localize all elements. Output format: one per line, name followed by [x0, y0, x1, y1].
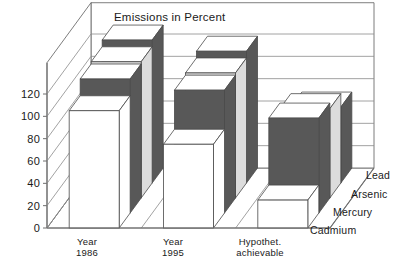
bar-cadmium-group2-front: [164, 144, 214, 228]
y-axis-tick-20: 20: [6, 200, 40, 212]
bar-arsenic-group2-side: [236, 58, 247, 198]
bar-cadmium-group1-front: [69, 111, 119, 228]
bar-cadmium-group3-front: [258, 200, 308, 228]
bar-mercury-group1-side: [130, 64, 141, 213]
series-label-cadmium: Cadmium: [310, 224, 356, 236]
series-label-mercury: Mercury: [333, 206, 372, 218]
series-label-lead: Lead: [366, 169, 390, 181]
y-axis-tick-80: 80: [6, 133, 40, 145]
y-axis-tick-40: 40: [6, 177, 40, 189]
y-axis-tick-60: 60: [6, 155, 40, 167]
chart-title: Emissions in Percent: [114, 11, 225, 23]
x-axis-label-hypothetical-line2: achievable: [215, 247, 305, 259]
bar-lead-group2-side: [247, 36, 258, 183]
bar-lead-group1-side: [152, 25, 163, 183]
bar-mercury-group3-side: [319, 103, 330, 213]
bar-cadmium-group2-side: [214, 129, 225, 228]
y-axis-tick-0: 0: [6, 222, 40, 234]
bar-arsenic-group3-side: [330, 94, 341, 198]
x-axis-label-year-1995-line2: 1995: [128, 247, 218, 259]
series-label-arsenic: Arsenic: [351, 188, 387, 200]
bar-arsenic-group1-side: [141, 47, 152, 198]
bar-mercury-group2-side: [225, 75, 236, 213]
x-axis-label-year-1986-line2: 1986: [42, 247, 132, 259]
x-axis-label-hypothetical-line1: Hypothet.: [215, 236, 305, 248]
y-axis-tick-120: 120: [6, 88, 40, 100]
bar-cadmium-group1-side: [119, 96, 130, 228]
y-axis-tick-100: 100: [6, 110, 40, 122]
x-axis-label-year-1995-line1: Year: [128, 236, 218, 248]
bar-lead-group3-side: [341, 92, 352, 183]
x-axis-label-year-1986-line1: Year: [42, 236, 132, 248]
chart-canvas: Emissions in Percent 120 100 80 60 40 20…: [0, 0, 409, 269]
